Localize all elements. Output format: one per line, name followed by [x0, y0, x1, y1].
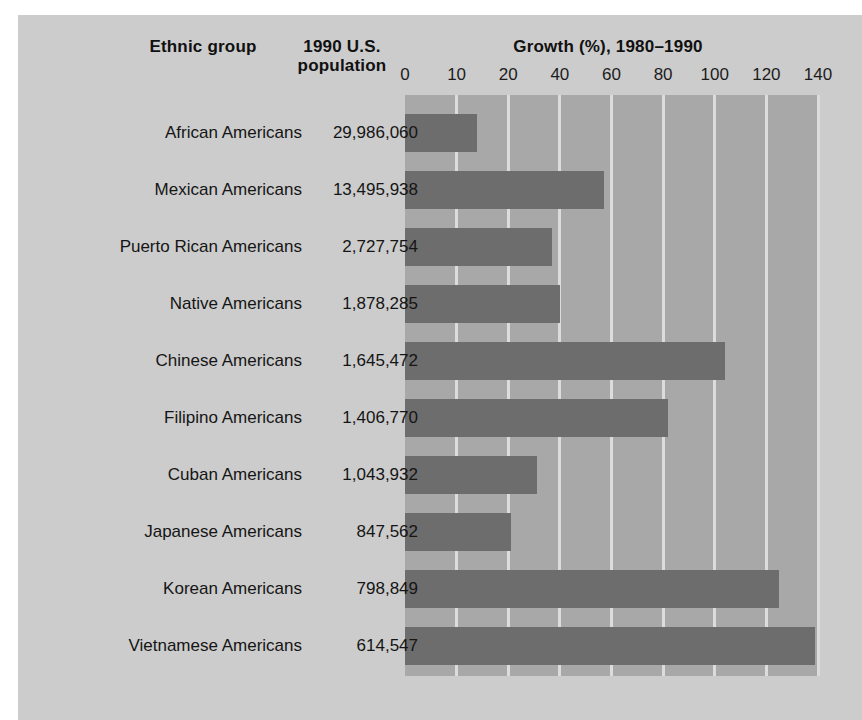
bar: [405, 456, 537, 494]
row-population: 1,645,472: [248, 342, 418, 380]
row-population: 1,043,932: [248, 456, 418, 494]
row-population: 614,547: [248, 627, 418, 665]
x-tick-label-60: 60: [592, 65, 632, 85]
bar: [405, 399, 668, 437]
bar: [405, 627, 815, 665]
chart-figure: Ethnic group 1990 U.S. population Growth…: [18, 15, 862, 720]
x-axis-ticks: 01020406080100120140: [405, 65, 849, 89]
row-population: 2,727,754: [248, 228, 418, 266]
row-population: 1,406,770: [248, 399, 418, 437]
plot-area: [405, 95, 818, 676]
x-tick-label-100: 100: [695, 65, 735, 85]
x-tick-label-10: 10: [437, 65, 477, 85]
x-tick-label-80: 80: [643, 65, 683, 85]
gridline-140: [817, 95, 820, 676]
row-population: 847,562: [248, 513, 418, 551]
x-tick-label-140: 140: [798, 65, 838, 85]
row-population: 798,849: [248, 570, 418, 608]
bar: [405, 228, 552, 266]
row-population: 1,878,285: [248, 285, 418, 323]
x-tick-label-120: 120: [746, 65, 786, 85]
x-tick-label-20: 20: [488, 65, 528, 85]
x-tick-label-0: 0: [385, 65, 425, 85]
x-tick-label-40: 40: [540, 65, 580, 85]
chart-title: Growth (%), 1980–1990: [396, 37, 820, 56]
bar: [405, 342, 725, 380]
bar: [405, 513, 511, 551]
row-population: 13,495,938: [248, 171, 418, 209]
row-population: 29,986,060: [248, 114, 418, 152]
bar: [405, 570, 779, 608]
bar: [405, 285, 560, 323]
bar: [405, 171, 604, 209]
